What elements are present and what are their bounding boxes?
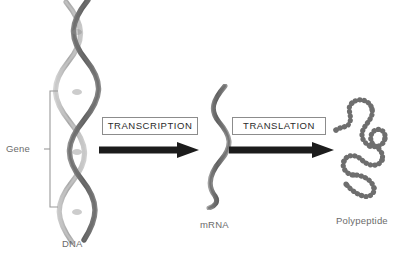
- transcription-label-box: TRANSCRIPTION: [102, 117, 198, 135]
- translation-label-box: TRANSLATION: [232, 117, 326, 135]
- gene-label: Gene: [6, 144, 30, 154]
- polypeptide-label: Polypeptide: [336, 216, 388, 226]
- transcription-label-text: TRANSCRIPTION: [108, 121, 193, 131]
- dna-label: DNA: [62, 239, 83, 249]
- mrna-label: mRNA: [200, 220, 229, 230]
- transcription-arrow-right-icon: [99, 142, 199, 158]
- diagram-canvas: Gene DNA TRANSCRIPTION mRNA TRANSLAT: [0, 0, 395, 257]
- translation-label-text: TRANSLATION: [243, 121, 315, 131]
- polypeptide-bead-chain-icon: [330, 96, 390, 202]
- translation-arrow-right-icon: [229, 142, 334, 158]
- gene-bracket-icon: [44, 90, 60, 208]
